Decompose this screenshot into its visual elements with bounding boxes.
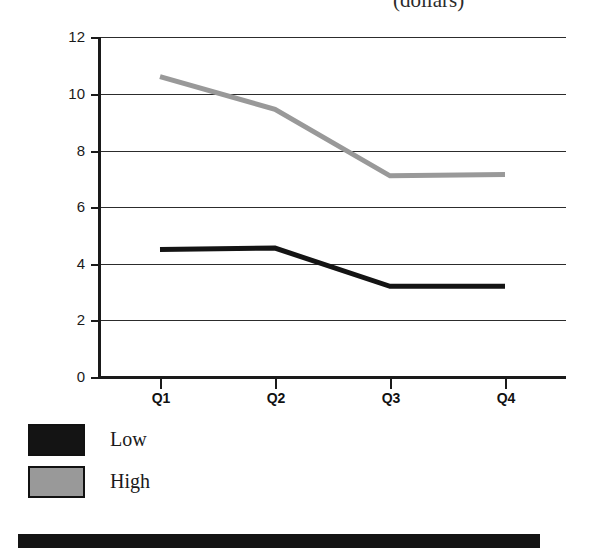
legend-item-low[interactable]: Low — [28, 422, 328, 464]
chart-legend: Low High — [28, 422, 328, 506]
series-line-low — [160, 248, 505, 286]
legend-swatch-high — [28, 466, 85, 498]
bottom-rule — [18, 534, 540, 548]
legend-item-high[interactable]: High — [28, 464, 328, 506]
series-plot — [0, 0, 589, 410]
legend-label-low: Low — [110, 428, 147, 451]
legend-label-high: High — [110, 470, 150, 493]
line-chart: 12 10 8 6 4 2 0 Q1 Q2 Q3 Q4 — [0, 0, 589, 410]
series-line-high — [160, 77, 505, 176]
legend-swatch-low — [28, 424, 85, 456]
